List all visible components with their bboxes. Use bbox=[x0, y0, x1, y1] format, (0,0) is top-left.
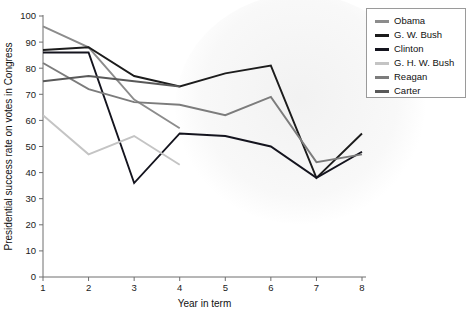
legend-item-clinton[interactable]: Clinton bbox=[375, 42, 465, 56]
legend-swatch-icon bbox=[375, 48, 389, 51]
legend-item-carter[interactable]: Carter bbox=[375, 84, 465, 98]
legend-item-reagan[interactable]: Reagan bbox=[375, 70, 465, 84]
legend-item-obama[interactable]: Obama bbox=[375, 14, 465, 28]
series-line bbox=[43, 26, 180, 128]
y-axis-ticks: 0102030405060708090100 bbox=[20, 10, 43, 282]
legend-item-label: Carter bbox=[394, 86, 420, 96]
x-axis-title: Year in term bbox=[178, 298, 232, 309]
x-tick-label: 4 bbox=[177, 282, 182, 293]
y-axis-title: Presidential success rate on votes in Co… bbox=[3, 43, 14, 251]
series-lines bbox=[43, 26, 362, 183]
y-tick-label: 0 bbox=[31, 271, 36, 282]
x-tick-label: 3 bbox=[131, 282, 136, 293]
y-tick-label: 10 bbox=[25, 245, 36, 256]
y-tick-label: 90 bbox=[25, 37, 36, 48]
legend-swatch-icon bbox=[375, 62, 389, 65]
y-tick-label: 70 bbox=[25, 89, 36, 100]
series-line bbox=[43, 63, 362, 162]
y-tick-label: 80 bbox=[25, 63, 36, 74]
y-tick-label: 40 bbox=[25, 167, 36, 178]
legend-swatch-icon bbox=[375, 20, 389, 23]
x-tick-label: 5 bbox=[223, 282, 228, 293]
legend-item-label: Obama bbox=[394, 16, 425, 26]
legend-item-g-h-w-bush[interactable]: G. H. W. Bush bbox=[375, 56, 465, 70]
x-tick-label: 2 bbox=[86, 282, 91, 293]
x-tick-label: 8 bbox=[359, 282, 364, 293]
x-tick-label: 1 bbox=[40, 282, 45, 293]
y-tick-label: 60 bbox=[25, 115, 36, 126]
x-axis-ticks: 12345678 bbox=[40, 277, 364, 293]
x-tick-label: 7 bbox=[314, 282, 319, 293]
legend-item-label: G. W. Bush bbox=[394, 30, 442, 40]
legend-swatch-icon bbox=[375, 90, 389, 93]
x-tick-label: 6 bbox=[268, 282, 273, 293]
series-line bbox=[43, 53, 362, 184]
y-tick-label: 100 bbox=[20, 10, 36, 21]
legend-item-g-w-bush[interactable]: G. W. Bush bbox=[375, 28, 465, 42]
legend-item-label: Clinton bbox=[394, 44, 424, 54]
legend-swatch-icon bbox=[375, 76, 389, 79]
legend-swatch-icon bbox=[375, 34, 389, 37]
chart-legend: ObamaG. W. BushClintonG. H. W. BushReaga… bbox=[366, 8, 466, 98]
y-tick-label: 50 bbox=[25, 141, 36, 152]
series-line bbox=[43, 115, 180, 165]
y-tick-label: 30 bbox=[25, 193, 36, 204]
line-chart: 0102030405060708090100 12345678 Presiden… bbox=[0, 0, 471, 311]
y-tick-label: 20 bbox=[25, 219, 36, 230]
legend-item-label: G. H. W. Bush bbox=[394, 58, 454, 68]
legend-item-label: Reagan bbox=[394, 72, 427, 82]
